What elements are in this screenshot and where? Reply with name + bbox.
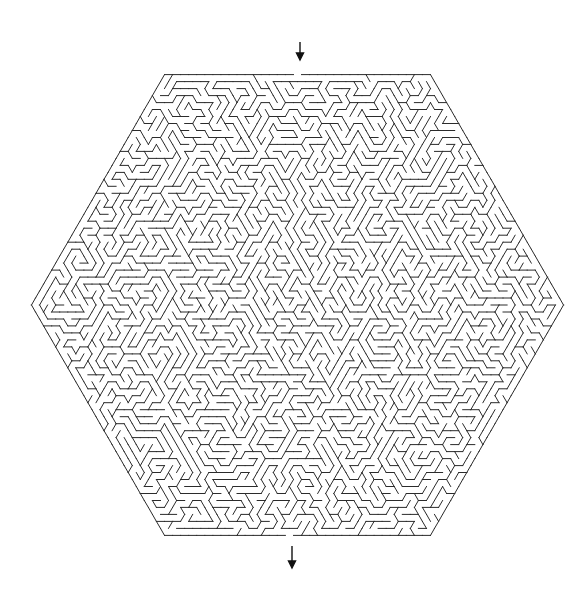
exit-arrow-icon xyxy=(289,546,296,568)
maze-walls xyxy=(32,75,564,536)
entrance-arrow-icon xyxy=(297,42,304,60)
maze-canvas xyxy=(0,0,587,604)
wall-segments xyxy=(32,75,564,536)
